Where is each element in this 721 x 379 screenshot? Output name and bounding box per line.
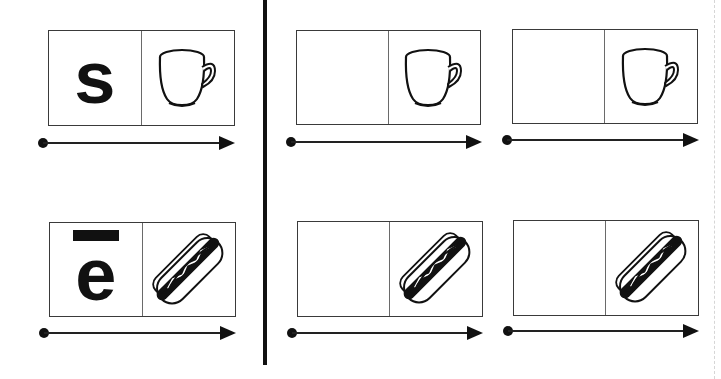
model-card-s: s (48, 30, 235, 126)
letter-e-macron: e (75, 228, 116, 312)
arrowhead-icon (683, 133, 699, 147)
arrowhead-icon (683, 324, 699, 338)
hotdog-icon (147, 228, 231, 312)
page-edge-guide (714, 0, 715, 379)
picture-cell (606, 221, 698, 315)
practice-card-cup-2[interactable] (512, 29, 698, 124)
section-divider (263, 0, 267, 365)
practice-card-hotdog-1[interactable] (297, 221, 483, 317)
direction-arrow (502, 133, 699, 147)
cup-icon (620, 44, 682, 110)
direction-arrow (38, 136, 235, 150)
direction-arrow (503, 324, 699, 338)
letter-cell: s (49, 31, 142, 125)
picture-cell (143, 223, 236, 316)
blank-letter-cell[interactable] (298, 222, 390, 316)
macron-mark (73, 230, 119, 241)
blank-letter-cell[interactable] (514, 221, 606, 315)
hotdog-icon (394, 227, 478, 311)
picture-cell (142, 31, 235, 125)
letter-s: s (74, 41, 115, 115)
arrowhead-icon (466, 135, 482, 149)
model-card-e-long: e (49, 222, 236, 317)
blank-letter-cell[interactable] (297, 31, 389, 124)
picture-cell (390, 222, 482, 316)
arrowhead-icon (219, 136, 235, 150)
letter-cell: e (50, 223, 143, 316)
practice-card-cup-1[interactable] (296, 30, 481, 125)
hotdog-icon (610, 226, 694, 310)
picture-cell (389, 31, 481, 124)
blank-letter-cell[interactable] (513, 30, 605, 123)
arrowhead-icon (467, 326, 483, 340)
direction-arrow (287, 326, 483, 340)
picture-cell (605, 30, 697, 123)
direction-arrow (286, 135, 482, 149)
arrowhead-icon (220, 326, 236, 340)
practice-card-hotdog-2[interactable] (513, 220, 699, 316)
cup-icon (403, 45, 465, 111)
direction-arrow (39, 326, 236, 340)
cup-icon (157, 45, 219, 111)
